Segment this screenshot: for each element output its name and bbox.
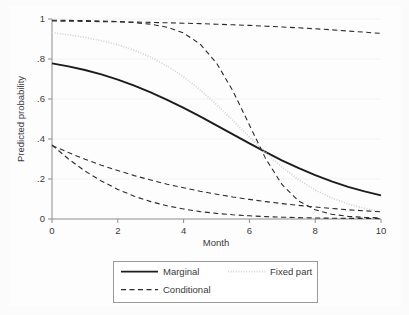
y-tick-label: .8 <box>37 53 45 64</box>
x-tick-label: 8 <box>313 225 318 236</box>
series-line-conditional-steep <box>52 20 381 218</box>
gridlines <box>53 19 381 179</box>
series-line-fixed-part <box>52 33 381 212</box>
series-line-marginal <box>52 63 381 195</box>
legend-label-marginal: Marginal <box>163 266 199 277</box>
y-tick-label: 1 <box>40 13 45 24</box>
legend-label-fixed-part: Fixed part <box>270 266 313 277</box>
x-tick-label: 10 <box>376 225 387 236</box>
y-tick-label: .6 <box>37 93 45 104</box>
figure-canvas: 0.2.4.6.81 0246810 Month Predicted proba… <box>0 0 409 315</box>
x-axis-ticks: 0246810 <box>49 219 386 236</box>
x-tick-label: 0 <box>49 225 54 236</box>
y-tick-label: .2 <box>37 173 45 184</box>
series-line-conditional-upper <box>52 21 381 33</box>
y-tick-label: .4 <box>37 133 45 144</box>
x-tick-label: 2 <box>115 225 120 236</box>
x-axis-title: Month <box>203 237 229 248</box>
x-tick-label: 6 <box>247 225 252 236</box>
y-axis-ticks: 0.2.4.6.81 <box>37 13 52 224</box>
y-tick-label: 0 <box>40 213 45 224</box>
series-layer <box>52 20 381 218</box>
x-tick-label: 4 <box>181 225 186 236</box>
y-axis-title: Predicted probability <box>15 76 26 162</box>
predicted-probability-chart: 0.2.4.6.81 0246810 Month Predicted proba… <box>0 0 409 315</box>
legend-label-conditional: Conditional <box>163 284 211 295</box>
